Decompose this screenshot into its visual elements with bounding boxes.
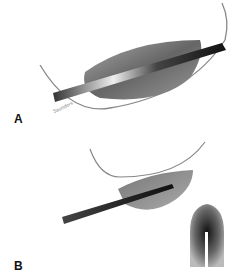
panel-label-a: A: [14, 112, 23, 126]
panel-b-illustration: [0, 137, 240, 274]
panel-a: A Saunders: [0, 0, 240, 137]
panel-a-illustration: [0, 0, 240, 137]
panel-b: B: [0, 137, 240, 274]
panel-label-b: B: [14, 259, 23, 273]
inset-channel: [205, 232, 208, 267]
